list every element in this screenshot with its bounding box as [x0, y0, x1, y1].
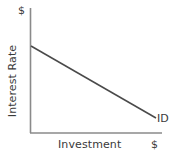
investment-demand-chart: $ Interest Rate Investment $ ID — [0, 0, 181, 160]
x-axis-unit-label: $ — [151, 139, 158, 151]
investment-demand-curve — [31, 46, 156, 118]
chart-plot-area — [0, 0, 181, 160]
y-axis-title: Interest Rate — [7, 35, 19, 127]
y-axis-unit-label: $ — [18, 5, 25, 17]
x-axis-title: Investment — [58, 139, 121, 151]
investment-demand-curve-label: ID — [157, 113, 169, 125]
